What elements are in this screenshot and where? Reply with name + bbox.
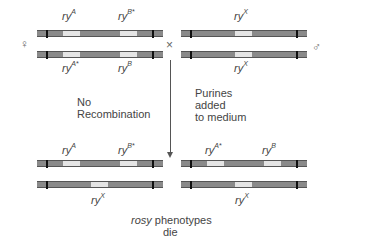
centromere-marker xyxy=(46,30,48,38)
telomere-marker xyxy=(152,51,154,59)
gene-band-ryB xyxy=(120,161,137,166)
label-male-top-ryX: ryX xyxy=(234,9,248,22)
gene-band-ryB xyxy=(120,52,137,57)
telomere-marker xyxy=(152,181,154,189)
centromere-marker xyxy=(46,181,48,189)
label-offspring-right-ryX: ryX xyxy=(235,193,249,206)
label-offspring-left-ryA: ryA xyxy=(62,143,76,156)
gene-band-ryA xyxy=(63,31,80,36)
gene-band-ryX xyxy=(235,182,252,187)
gene-band-ryB xyxy=(264,161,281,166)
label-offspring-right-ryB: ryB xyxy=(262,143,276,156)
cross-arrow-line xyxy=(170,60,171,153)
female-chromosome-top xyxy=(37,30,163,37)
label-female-top-ryA: ryA xyxy=(62,9,76,22)
centromere-marker xyxy=(190,160,192,168)
centromere-marker xyxy=(190,30,192,38)
telomere-marker xyxy=(152,30,154,38)
telomere-marker xyxy=(296,160,298,168)
label-female-bottom-ryAstar: ryA* xyxy=(62,61,79,74)
offspring-right-chromosome-bottom xyxy=(181,181,307,188)
label-offspring-right-ryAstar: ryA* xyxy=(205,143,222,156)
female-symbol-icon: ♀ xyxy=(20,37,29,51)
gene-band-ryA xyxy=(63,161,80,166)
telomere-marker xyxy=(296,51,298,59)
result-line-2: die xyxy=(163,226,178,238)
centromere-marker xyxy=(190,181,192,189)
label-female-bottom-ryB: ryB xyxy=(118,61,132,74)
purines-note: Purines added to medium xyxy=(195,87,246,123)
telomere-marker xyxy=(296,181,298,189)
centromere-marker xyxy=(190,51,192,59)
telomere-marker xyxy=(296,30,298,38)
male-chromosome-top xyxy=(181,30,307,37)
gene-band-ryX xyxy=(235,31,252,36)
gene-band-ryB xyxy=(120,31,137,36)
centromere-marker xyxy=(46,51,48,59)
male-symbol-icon: ♂ xyxy=(312,40,321,54)
telomere-marker xyxy=(152,160,154,168)
gene-band-ryX xyxy=(91,182,108,187)
offspring-left-chromosome-top xyxy=(37,160,163,167)
gene-band-ryA xyxy=(207,161,224,166)
label-male-bottom-ryX: ryX xyxy=(234,61,248,74)
offspring-left-chromosome-bottom xyxy=(37,181,163,188)
gene-band-ryX xyxy=(235,52,252,57)
gene-band-ryA xyxy=(63,52,80,57)
offspring-right-chromosome-top xyxy=(181,160,307,167)
label-offspring-left-ryBstar: ryB* xyxy=(118,143,135,156)
male-chromosome-bottom xyxy=(181,51,307,58)
arrow-down-icon xyxy=(167,152,173,158)
female-chromosome-bottom xyxy=(37,51,163,58)
no-recombination-note: No Recombination xyxy=(77,96,150,120)
label-offspring-left-ryX: ryX xyxy=(91,193,105,206)
result-line-1: rosy phenotypes xyxy=(131,214,212,226)
centromere-marker xyxy=(46,160,48,168)
cross-symbol-icon: × xyxy=(166,38,173,52)
label-female-top-ryBstar: ryB* xyxy=(118,9,135,22)
